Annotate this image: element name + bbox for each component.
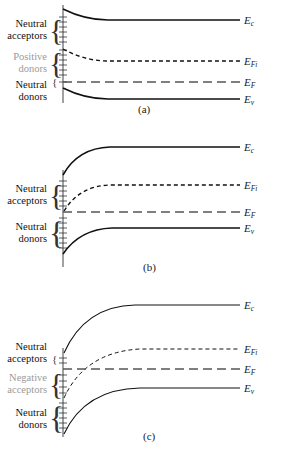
group-label: donors	[18, 233, 47, 244]
group-label: donors	[18, 91, 47, 102]
panel-caption: (b)	[143, 261, 156, 274]
group-label: acceptors	[7, 353, 47, 364]
group-label: Positive	[13, 51, 47, 62]
intrinsic-fermi-level	[63, 49, 240, 61]
brace-icon: {	[49, 13, 63, 46]
efi-label: EFi	[243, 343, 257, 357]
group-label: acceptors	[7, 384, 47, 395]
ev-label: Ev	[243, 222, 255, 236]
brace-icon: {	[52, 353, 57, 365]
group-label: Neutral	[16, 183, 48, 194]
efi-label: EFi	[243, 55, 257, 69]
ec-label: Ec	[243, 141, 255, 155]
ef-label: EF	[243, 76, 256, 90]
panel-a: Ec EFi EF Ev Neutral acceptors { Positiv…	[7, 5, 257, 116]
group-label: donors	[18, 63, 47, 74]
valence-band-edge	[64, 388, 240, 434]
group-label: donors	[18, 419, 47, 430]
brace-icon: {	[49, 46, 63, 79]
group-label: Neutral	[16, 341, 48, 352]
ec-label: Ec	[243, 299, 255, 313]
ev-label: Ev	[243, 382, 255, 396]
conduction-band-edge	[64, 305, 240, 353]
valence-band-edge	[63, 228, 240, 254]
group-label: acceptors	[7, 30, 47, 41]
brace-icon: {	[49, 400, 64, 436]
intrinsic-fermi-level	[64, 185, 240, 211]
group-label: acceptors	[7, 195, 47, 206]
group-label: Neutral	[16, 79, 48, 90]
conduction-band-edge	[63, 147, 240, 175]
intrinsic-fermi-level	[64, 349, 240, 398]
panel-caption: (c)	[143, 430, 156, 443]
brace-icon: {	[49, 215, 64, 251]
ec-label: Ec	[243, 14, 255, 28]
group-label: Negative	[9, 372, 47, 383]
group-label: Neutral	[16, 221, 48, 232]
brace-icon: {	[49, 178, 63, 211]
efi-label: EFi	[243, 179, 257, 193]
brace-icon: {	[49, 367, 63, 400]
conduction-band-edge	[63, 9, 240, 20]
ev-label: Ev	[243, 93, 255, 107]
panel-caption: (a)	[138, 103, 151, 116]
panel-c: Ec EFi EF Ev Neutral acceptors { Negativ…	[7, 299, 257, 443]
ef-label: EF	[243, 363, 256, 377]
ef-label: EF	[243, 206, 256, 220]
panel-b: Ec EFi EF Ev Neutral acceptors { Neutral…	[7, 141, 257, 274]
group-label: Neutral	[16, 407, 48, 418]
brace-icon: {	[52, 76, 57, 88]
valence-band-edge	[63, 88, 240, 99]
group-label: Neutral	[16, 18, 48, 29]
